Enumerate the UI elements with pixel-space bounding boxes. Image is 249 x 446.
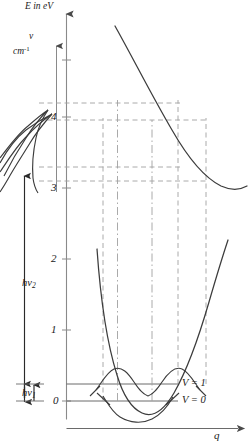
energy-axis-label: E in eV — [25, 2, 53, 12]
wavenumber-axis-symbol: ν — [29, 32, 33, 42]
y-tick-2: 2 — [51, 253, 57, 264]
excited-state-potential-curve — [115, 26, 247, 189]
diagram-canvas — [0, 0, 249, 446]
ground-state-potential-curve — [97, 240, 228, 414]
hv2-subscript: 2 — [32, 281, 36, 290]
x-axis-label: q — [214, 430, 220, 441]
hv1-subscript: 1 — [32, 391, 36, 400]
hv1-symbol: hν — [22, 387, 32, 398]
y-tick-4: 4 — [51, 111, 57, 122]
y-tick-0: 0 — [53, 395, 59, 406]
vibrational-level-lines — [67, 384, 179, 401]
transition-label-hv2: hν2 — [22, 278, 36, 290]
wavefunction-v0 — [97, 393, 179, 422]
projection-lines-horizontal — [39, 103, 206, 181]
spectral-envelope-curves — [0, 110, 52, 193]
level-label-v1: V = 1 — [182, 378, 206, 389]
hv2-symbol: hν — [22, 277, 32, 288]
transition-label-hv1: hν1 — [22, 388, 36, 400]
franck-condon-diagram: E in eV ν cm-1 4 3 2 1 0 hν2 hν1 V = 1 V… — [0, 0, 249, 446]
wavenumber-units-base: cm — [13, 46, 24, 56]
y-tick-1: 1 — [51, 324, 57, 335]
wavenumber-units-exponent: -1 — [24, 45, 30, 52]
energy-axis — [62, 14, 71, 420]
y-tick-3: 3 — [51, 182, 57, 193]
wavenumber-axis-units: cm-1 — [13, 46, 30, 57]
level-label-v0: V = 0 — [182, 395, 206, 406]
